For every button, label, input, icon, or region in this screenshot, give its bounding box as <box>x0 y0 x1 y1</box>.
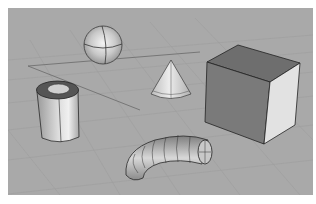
box-object[interactable] <box>205 45 300 144</box>
3d-viewport[interactable] <box>8 8 313 195</box>
pipe-object[interactable] <box>126 135 212 180</box>
sphere-object[interactable] <box>84 26 122 64</box>
tube-object[interactable] <box>37 81 80 142</box>
cone-object[interactable] <box>151 60 191 99</box>
